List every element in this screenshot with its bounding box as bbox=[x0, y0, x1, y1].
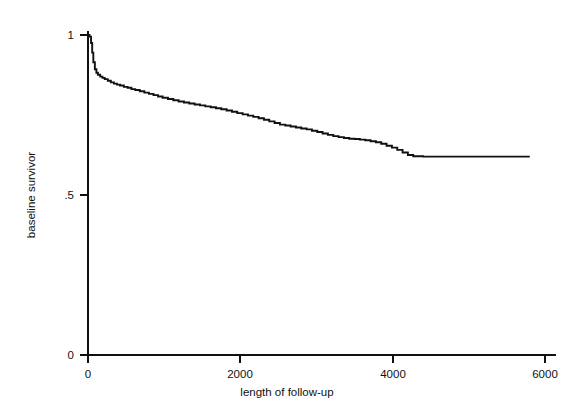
x-axis-title: length of follow-up bbox=[240, 386, 333, 398]
x-ticklabel-2000: 2000 bbox=[227, 368, 253, 380]
x-ticklabel-4000: 4000 bbox=[380, 368, 406, 380]
y-axis-title: baseline survivor bbox=[25, 152, 37, 238]
survival-plot: 1 .5 0 0 2000 4000 6000 length of follow… bbox=[0, 0, 570, 416]
y-ticklabel-1: 1 bbox=[68, 29, 74, 41]
x-ticklabel-6000: 6000 bbox=[532, 368, 558, 380]
survival-curve bbox=[88, 35, 530, 157]
y-ticklabel-0point5: .5 bbox=[64, 189, 74, 201]
x-ticklabel-0: 0 bbox=[85, 368, 91, 380]
y-ticklabel-0: 0 bbox=[68, 349, 74, 361]
chart-container: 1 .5 0 0 2000 4000 6000 length of follow… bbox=[0, 0, 570, 416]
